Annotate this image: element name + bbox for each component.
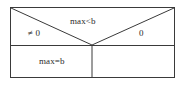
- lower-left-region-label: max=b: [39, 57, 65, 66]
- upper-left-region-label: ≠ 0: [28, 29, 40, 38]
- upper-middle-region-label: max<b: [70, 17, 96, 26]
- diagram-lines: [0, 0, 185, 85]
- diagram-canvas: ≠ 0 max<b 0 max=b: [0, 0, 185, 85]
- upper-right-region-label: 0: [139, 29, 144, 38]
